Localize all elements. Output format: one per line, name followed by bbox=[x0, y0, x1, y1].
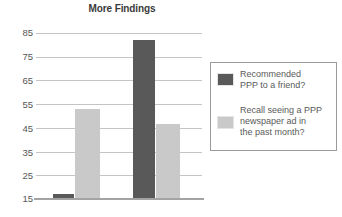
y-tick-label: 15 bbox=[3, 194, 33, 203]
y-tick-label: 25 bbox=[3, 171, 33, 180]
legend-label-line: the past month? bbox=[240, 127, 334, 138]
chart-screenshot: More Findings 85 75 65 55 45 35 25 15 Re… bbox=[0, 0, 342, 217]
legend-label-line: PPP to a friend? bbox=[240, 80, 334, 91]
bar-series1-group2 bbox=[133, 40, 155, 199]
bar-group-container bbox=[36, 33, 202, 199]
y-tick-label: 65 bbox=[3, 76, 33, 85]
y-tick-label: 45 bbox=[3, 124, 33, 133]
y-axis-labels: 85 75 65 55 45 35 25 15 bbox=[0, 0, 33, 217]
x-axis-line bbox=[34, 198, 204, 200]
legend-swatch-icon bbox=[217, 73, 234, 86]
y-tick-label: 85 bbox=[3, 28, 33, 37]
legend-label-line: Recall seeing a PPP bbox=[240, 105, 334, 116]
chart-title: More Findings bbox=[36, 3, 208, 14]
y-tick-label: 55 bbox=[3, 100, 33, 109]
bar-series2-group2 bbox=[156, 124, 180, 199]
bar-series2-group1 bbox=[75, 109, 100, 199]
y-tick-label: 35 bbox=[3, 148, 33, 157]
chart-legend: Recommended PPP to a friend? Recall seei… bbox=[210, 62, 337, 151]
legend-entry-recall: Recall seeing a PPP newspaper ad in the … bbox=[211, 103, 336, 147]
legend-label-recall: Recall seeing a PPP newspaper ad in the … bbox=[240, 105, 334, 139]
legend-label-line: newspaper ad in bbox=[240, 116, 334, 127]
legend-swatch-icon bbox=[217, 116, 234, 129]
legend-label-line: Recommended bbox=[240, 69, 334, 80]
y-tick-label: 75 bbox=[3, 52, 33, 61]
legend-label-recommended: Recommended PPP to a friend? bbox=[240, 69, 334, 91]
